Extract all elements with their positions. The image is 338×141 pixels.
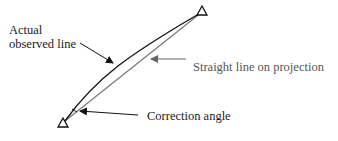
- diagram-canvas: Actual observed line Straight line on pr…: [0, 0, 338, 141]
- actual-observed-line-label-line1: Actual: [9, 23, 76, 37]
- correction-angle-pointer-arrow: [80, 111, 138, 115]
- projection-line: [65, 12, 202, 121]
- straight-line-on-projection-label: Straight line on projection: [193, 60, 324, 74]
- correction-angle-label: Correction angle: [147, 109, 231, 123]
- observed-line-pointer-arrow: [80, 43, 113, 63]
- actual-observed-line-label: Actual observed line: [9, 23, 76, 51]
- actual-observed-line-label-line2: observed line: [9, 37, 76, 51]
- end-station-triangle-icon: [197, 6, 207, 15]
